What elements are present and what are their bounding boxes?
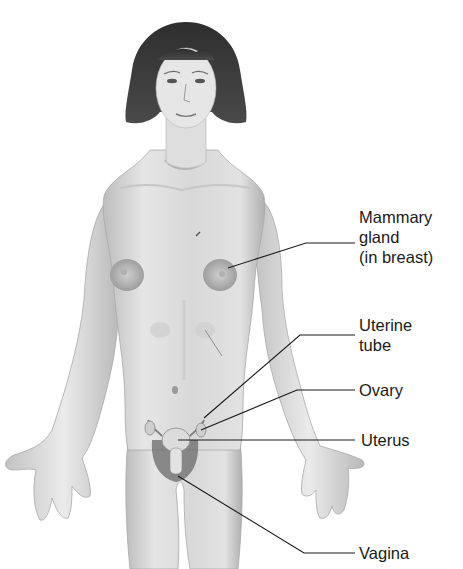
label-mammary-gland: Mammary gland (in breast) xyxy=(359,207,433,267)
left-arm xyxy=(5,200,120,520)
anatomy-illustration xyxy=(0,0,463,569)
label-uterine-tube: Uterine tube xyxy=(359,315,412,355)
head xyxy=(125,22,246,128)
torso xyxy=(103,150,265,450)
label-vagina: Vagina xyxy=(359,543,409,563)
label-uterus: Uterus xyxy=(361,430,410,450)
right-arm xyxy=(254,200,364,518)
label-ovary: Ovary xyxy=(359,380,403,400)
